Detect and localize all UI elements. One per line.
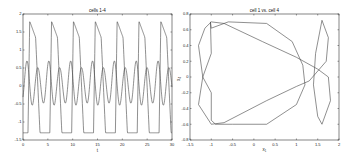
- svg-text:0: 0: [22, 142, 25, 147]
- svg-text:20: 20: [120, 142, 125, 147]
- svg-text:10: 10: [70, 142, 75, 147]
- right-y-axis-label: x₄: [176, 77, 181, 81]
- svg-text:2: 2: [338, 142, 341, 147]
- right-x-axis-label: x₁: [263, 147, 267, 152]
- svg-text:1: 1: [19, 47, 22, 52]
- svg-text:0: 0: [186, 74, 189, 79]
- svg-text:0.6: 0.6: [183, 27, 189, 32]
- svg-text:-1: -1: [18, 119, 22, 124]
- svg-text:-0.4: -0.4: [182, 106, 190, 111]
- svg-text:0.5: 0.5: [272, 142, 278, 147]
- left-axes-frame: [23, 14, 172, 140]
- svg-text:-0.2: -0.2: [182, 90, 190, 95]
- svg-text:-0.6: -0.6: [182, 122, 190, 127]
- svg-text:0.2: 0.2: [183, 59, 189, 64]
- svg-text:-1: -1: [210, 142, 214, 147]
- svg-text:15: 15: [95, 142, 100, 147]
- svg-text:0: 0: [253, 142, 256, 147]
- left-plot: cells 1-4 051015202530 -1.5-1-0.500.511.…: [15, 8, 175, 154]
- svg-text:0.4: 0.4: [183, 43, 189, 48]
- svg-text:1.5: 1.5: [16, 29, 22, 34]
- svg-text:0.8: 0.8: [183, 11, 189, 16]
- svg-text:5: 5: [47, 142, 50, 147]
- svg-text:1.5: 1.5: [315, 142, 321, 147]
- right-plot: cell 1 vs. cell 4 -1.5-1-0.500.511.52 -0…: [176, 8, 341, 153]
- left-plot-title: cells 1-4: [89, 8, 106, 13]
- svg-text:-1.5: -1.5: [15, 137, 23, 142]
- left-x-axis-label: t: [97, 148, 99, 153]
- svg-text:1: 1: [295, 142, 298, 147]
- svg-text:30: 30: [170, 142, 175, 147]
- svg-text:-0.5: -0.5: [229, 142, 237, 147]
- svg-text:2: 2: [19, 11, 22, 16]
- figure: cells 1-4 051015202530 -1.5-1-0.500.511.…: [0, 0, 354, 154]
- svg-text:25: 25: [145, 142, 150, 147]
- svg-text:0.5: 0.5: [16, 65, 22, 70]
- svg-text:-0.8: -0.8: [182, 137, 190, 142]
- svg-text:0: 0: [19, 83, 22, 88]
- right-plot-title: cell 1 vs. cell 4: [250, 8, 280, 13]
- svg-text:-0.5: -0.5: [15, 101, 23, 106]
